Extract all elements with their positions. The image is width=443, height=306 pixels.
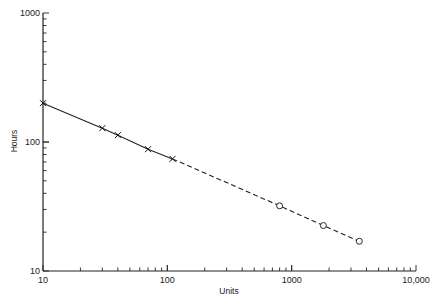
x-marker [169,156,175,162]
data-lines [43,103,359,241]
x-tick-label: 10 [38,275,48,285]
x-tick-label: 1000 [282,275,302,285]
x-marker [115,132,121,138]
extrapolated-line [173,159,360,241]
circle-marker [356,238,362,244]
axis-ticks [43,13,416,271]
x-marker [99,125,105,131]
tick-labels: 10100100010,000101001000 [20,8,430,285]
axes [43,13,416,271]
x-tick-label: 10,000 [402,275,430,285]
y-tick-label: 10 [30,266,40,276]
circle-marker [320,223,326,229]
learning-curve-chart: 10100100010,000101001000 Units Hours [0,0,443,306]
x-axis-title: Units [219,286,238,296]
y-axis-title: Hours [9,130,19,153]
y-tick-label: 1000 [20,8,40,18]
x-marker [145,146,151,152]
x-tick-label: 100 [160,275,175,285]
observed-line [43,103,173,159]
circle-marker [277,203,283,209]
y-tick-label: 100 [25,137,40,147]
